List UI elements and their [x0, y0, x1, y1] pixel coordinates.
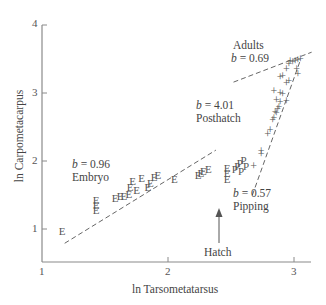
- embryo-label: Embryo: [72, 171, 109, 184]
- data-point: +: [294, 67, 301, 81]
- y-axis-title: ln Carpometacarpus: [13, 81, 25, 191]
- data-point: +: [283, 94, 290, 108]
- slope-value: = 0.96: [78, 158, 110, 170]
- data-point: P: [243, 160, 249, 172]
- data-point: +: [250, 159, 257, 173]
- data-point: E: [155, 169, 162, 181]
- y-tick-3: 3: [32, 86, 38, 98]
- y-tick-4: 4: [32, 17, 38, 29]
- hatch-label: Hatch: [204, 246, 231, 259]
- data-point: E: [133, 184, 140, 196]
- data-point: E: [59, 225, 66, 237]
- pipping-label: Pipping: [233, 200, 269, 213]
- x-axis-title: ln Tarsometatarsus: [132, 283, 218, 295]
- data-point: +: [258, 144, 265, 158]
- data-point: E: [205, 163, 212, 175]
- posthatch-label: Posthatch: [196, 112, 241, 125]
- data-point: E: [171, 173, 178, 185]
- adults-label: Adults: [233, 39, 264, 52]
- slope-value: = 0.57: [239, 187, 271, 199]
- x-tick-3: 3: [291, 265, 297, 277]
- posthatch-slope: b = 4.01: [196, 99, 234, 112]
- scatter-plot: EEEEEEEEEEEEEEEEEEEEEEEEPPPPPP++++++++++…: [0, 0, 326, 305]
- axes: [42, 25, 311, 262]
- hatch-arrow-icon: [216, 208, 223, 243]
- y-tick-2: 2: [32, 154, 38, 166]
- data-point: +: [286, 74, 293, 88]
- y-tick-1: 1: [32, 222, 38, 234]
- x-tick-2: 2: [165, 265, 171, 277]
- x-tick-1: 1: [39, 265, 45, 277]
- adults-slope: b = 0.69: [231, 52, 269, 65]
- pipping-slope: b = 0.57: [233, 187, 271, 200]
- fit-lines: [65, 52, 312, 243]
- data-point: E: [93, 194, 100, 206]
- embryo-slope: b = 0.96: [72, 158, 110, 171]
- slope-value: = 4.01: [202, 99, 234, 111]
- slope-value: = 0.69: [237, 52, 269, 64]
- data-point: E: [224, 162, 231, 174]
